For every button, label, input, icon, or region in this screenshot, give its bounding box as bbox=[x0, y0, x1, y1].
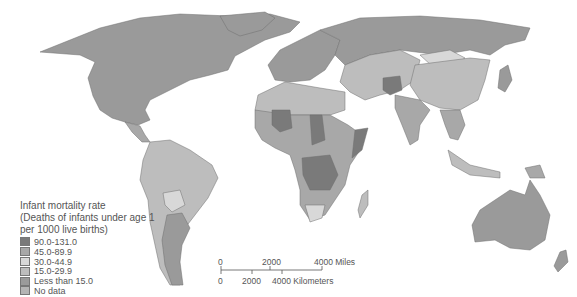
scale-km-2000: 2000 bbox=[242, 276, 261, 286]
region-india bbox=[395, 95, 430, 145]
region-southeast-asia bbox=[440, 110, 465, 140]
legend-swatch bbox=[20, 277, 30, 286]
legend-swatch bbox=[20, 237, 30, 246]
legend-swatch bbox=[20, 247, 30, 256]
legend-item: No data bbox=[20, 286, 155, 296]
legend-swatch bbox=[20, 267, 30, 276]
region-afghanistan bbox=[383, 76, 402, 95]
legend-swatch bbox=[20, 257, 30, 266]
legend-title: Infant mortality rate (Deaths of infants… bbox=[20, 200, 155, 236]
legend-label: No data bbox=[34, 285, 66, 297]
scale-km-0: 0 bbox=[218, 276, 223, 286]
region-png bbox=[525, 165, 545, 178]
legend-swatch bbox=[20, 286, 30, 295]
legend-title-line1: Infant mortality rate bbox=[20, 200, 155, 212]
map-legend: Infant mortality rate (Deaths of infants… bbox=[20, 200, 155, 296]
scale-line bbox=[218, 266, 328, 274]
legend-title-line2: (Deaths of infants under age 1 bbox=[20, 212, 155, 224]
scale-km-4000: 4000 Kilometers bbox=[272, 276, 333, 286]
region-madagascar bbox=[358, 190, 368, 218]
scale-bar: 0 2000 4000 Miles 0 2000 4000 Kilometers bbox=[218, 257, 368, 287]
region-indonesia bbox=[448, 150, 500, 178]
region-japan bbox=[498, 65, 512, 92]
region-southern-africa bbox=[305, 205, 325, 222]
region-new-zealand bbox=[554, 250, 568, 272]
legend-title-line3: per 1000 live births) bbox=[20, 224, 155, 236]
region-europe bbox=[268, 30, 340, 82]
region-australia bbox=[472, 180, 550, 250]
